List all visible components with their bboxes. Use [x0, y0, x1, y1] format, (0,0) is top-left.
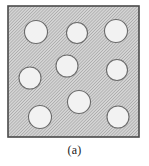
figure-caption: (a) [0, 143, 149, 157]
inclusion-circle [68, 91, 91, 114]
microstructure-diagram [0, 0, 149, 166]
inclusion-circle [19, 67, 41, 89]
inclusion-circle [107, 60, 128, 81]
inclusion-circle [107, 106, 129, 128]
inclusion-circle [105, 20, 128, 43]
figure-panel: (a) [0, 0, 149, 166]
inclusion-circle [25, 21, 48, 44]
inclusion-circle [67, 23, 88, 44]
inclusion-circle [56, 55, 78, 77]
inclusion-group [19, 20, 129, 129]
inclusion-circle [29, 106, 52, 129]
